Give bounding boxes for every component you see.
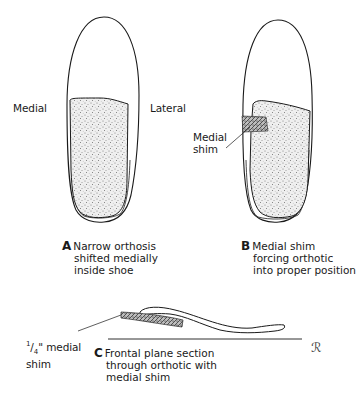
- lateral-label: Lateral: [150, 102, 186, 114]
- artist-signature: ℛ: [311, 342, 321, 354]
- caption-b-line-3: into proper position: [241, 264, 356, 276]
- panel-b-shoe: [226, 20, 312, 222]
- caption-a: ANarrow orthosis shifted medially inside…: [62, 240, 158, 277]
- caption-a-line-2: shifted medially: [62, 252, 158, 264]
- caption-c: CFrontal plane section through orthotic …: [94, 347, 217, 384]
- caption-c-letter: C: [94, 346, 103, 360]
- quarter-inch-shim-callout: 1/4" medial shim: [26, 338, 81, 370]
- panel-c-section: [78, 307, 302, 339]
- caption-a-line-3: inside shoe: [62, 264, 158, 276]
- medial-label: Medial: [13, 102, 47, 114]
- medial-shim-callout-line-1: Medial: [193, 131, 227, 143]
- caption-b: BMedial shim forcing orthotic into prope…: [241, 240, 356, 277]
- caption-b-letter: B: [241, 239, 250, 253]
- callout-line-2: shim: [26, 358, 81, 370]
- medial-shim-callout: Medial shim: [193, 131, 227, 155]
- caption-c-line-3: medial shim: [94, 371, 217, 383]
- callout-rest: " medial: [38, 341, 81, 353]
- medial-shim-b: [242, 116, 268, 132]
- caption-c-line-1: Frontal plane section: [105, 347, 215, 359]
- caption-a-line-1: Narrow orthosis: [73, 240, 156, 252]
- caption-c-line-2: through orthotic with: [94, 359, 217, 371]
- fraction-numerator: 1: [26, 340, 30, 348]
- caption-a-letter: A: [62, 239, 71, 253]
- panel-a-shoe: [67, 17, 139, 222]
- caption-b-line-2: forcing orthotic: [241, 252, 356, 264]
- medial-shim-callout-line-2: shim: [193, 143, 227, 155]
- caption-b-line-1: Medial shim: [252, 240, 315, 252]
